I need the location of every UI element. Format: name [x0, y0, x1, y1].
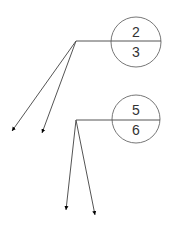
- callout-1-leader-arrow-left: [12, 41, 76, 131]
- diagram-canvas: 2 3 5 6: [0, 0, 174, 230]
- callout-1-leader-arrow-right: [42, 41, 76, 133]
- callout-2-top-value: 5: [132, 102, 140, 118]
- callout-1-top-value: 2: [132, 24, 140, 40]
- callout-2: 5 6: [66, 95, 160, 215]
- callout-2-bottom-value: 6: [132, 122, 140, 138]
- callout-2-leader-arrow-right: [76, 120, 95, 215]
- callout-1-bottom-value: 3: [132, 44, 140, 60]
- callout-2-leader-arrow-left: [66, 120, 76, 210]
